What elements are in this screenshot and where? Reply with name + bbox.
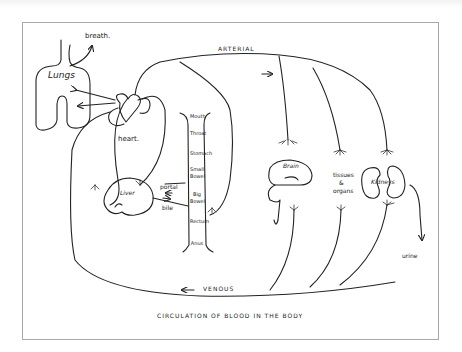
- tract-mouth: Mouth: [190, 114, 204, 119]
- circulation-drawing: [0, 0, 462, 352]
- heart-to-lungs-arrow: [78, 103, 115, 106]
- tract-anus: Anus: [190, 241, 204, 246]
- tract-big: Big: [190, 192, 204, 197]
- diagram-title: CIRCULATION OF BLOOD IN THE BODY: [157, 313, 303, 319]
- brain-shape: [268, 160, 312, 224]
- breath-label: breath.: [85, 33, 110, 40]
- tract-throat: Throat: [190, 131, 204, 136]
- heart-label: heart.: [118, 136, 139, 143]
- portal-label: portal: [160, 184, 178, 190]
- lungs-to-heart-arrow: [76, 90, 115, 100]
- bile-arrow: [163, 198, 170, 199]
- bile-label: bile: [162, 205, 173, 211]
- tract-bowel-big: Bowel: [190, 199, 204, 204]
- lungs-label: Lungs: [48, 71, 75, 80]
- kidneys-label: Kidneys: [371, 179, 395, 185]
- breath-arrow: [70, 46, 92, 66]
- tract-bowel-small: Bowel: [190, 174, 204, 179]
- organs-label: organs: [333, 188, 353, 194]
- tract-small: Small: [190, 167, 204, 172]
- urine-label: urine: [402, 253, 417, 259]
- tract-rectum: Rectum: [190, 219, 204, 224]
- arterial-label: ARTERIAL: [218, 46, 255, 52]
- tract-stomach: Stomach: [190, 151, 204, 156]
- brain-label: Brain: [283, 163, 299, 169]
- venous-label: VENOUS: [203, 286, 234, 292]
- tissues-label: tissues: [333, 172, 354, 178]
- tissues-and-label: &: [339, 180, 344, 186]
- lungs-shape: [36, 40, 90, 130]
- liver-label: Liver: [120, 190, 135, 196]
